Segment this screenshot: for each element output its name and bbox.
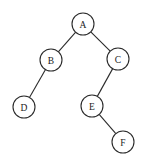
node-c: C — [107, 48, 129, 70]
tree-diagram: ABCDEF — [0, 0, 144, 163]
node-f: F — [112, 131, 134, 153]
node-label: F — [120, 138, 125, 148]
edge-c-e — [97, 69, 112, 97]
edge-e-f — [99, 114, 116, 133]
node-label: D — [21, 103, 28, 113]
edge-b-d — [29, 70, 45, 98]
node-label: E — [89, 102, 95, 112]
node-a: A — [72, 13, 94, 35]
node-label: C — [115, 55, 121, 65]
node-d: D — [13, 96, 35, 118]
edge-a-c — [91, 32, 110, 51]
node-label: B — [48, 56, 54, 66]
node-e: E — [81, 95, 103, 117]
tree-svg: ABCDEF — [0, 0, 144, 163]
node-b: B — [40, 49, 62, 71]
edge-a-b — [58, 32, 75, 52]
node-label: A — [80, 20, 87, 30]
edges-group — [29, 32, 115, 134]
